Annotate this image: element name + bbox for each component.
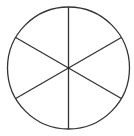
sector-circle-diagram: [0, 0, 134, 136]
